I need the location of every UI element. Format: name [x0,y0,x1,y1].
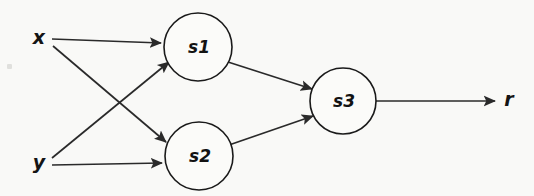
edge-x-to-s2 [53,46,166,142]
edge-y-to-s1 [52,62,169,158]
node-s3-label: s3 [333,91,355,111]
diagram-canvas: s1 s2 s3 x y r [0,0,534,196]
edge-y-to-s2 [52,163,162,165]
edge-s1-to-s3 [228,62,312,89]
edge-s2-to-s3 [229,116,313,145]
node-s2-label: s2 [189,146,211,166]
network-diagram: s1 s2 s3 x y r [0,0,534,196]
input-y-label: y [33,151,47,173]
output-r-label: r [504,88,515,110]
node-s1-label: s1 [188,37,210,57]
input-x-label: x [32,26,46,48]
edge-x-to-s1 [52,39,161,43]
